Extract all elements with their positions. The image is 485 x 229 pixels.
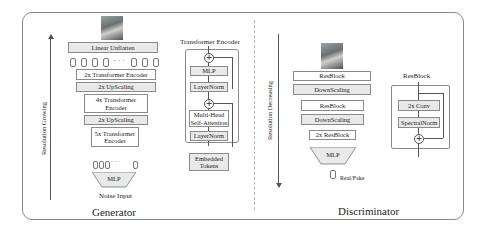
token-icon xyxy=(105,161,110,169)
skip-connection xyxy=(443,93,444,138)
transformer-encoder-title: Transformer Encoder xyxy=(180,38,240,46)
generator-axis-label: Resolution Growing xyxy=(40,102,47,155)
token-icon xyxy=(99,161,104,169)
add-icon: + xyxy=(204,53,214,63)
resolution-decreasing-arrow xyxy=(278,34,279,184)
generator-mlp-label: MLP xyxy=(104,175,124,182)
skip-connection-bottom xyxy=(424,138,443,139)
token-icon xyxy=(142,58,148,67)
resblock-conv-block: 2x Conv xyxy=(398,100,440,111)
generator-title: Generator xyxy=(92,206,136,218)
output-token-icon xyxy=(330,170,336,179)
generator-block-transformer-4x: 4x Transformer Encoder xyxy=(84,94,148,113)
add-icon: + xyxy=(204,99,214,109)
input-image xyxy=(321,43,343,69)
generator-block-upscaling-1: 2x UpScaling xyxy=(76,82,156,92)
discriminator-axis-label: Resolution Decreasing xyxy=(266,81,273,140)
generator-block-transformer-5x: 5x Transformer Encoder xyxy=(91,127,139,147)
token-icon xyxy=(131,58,137,67)
discriminator-block-resblock-2x: 2x ResBlock xyxy=(309,130,356,140)
noise-input-label: Noise Input xyxy=(99,192,132,200)
token-icon xyxy=(153,58,159,67)
token-icon xyxy=(103,58,109,67)
resolution-growing-arrow xyxy=(50,38,51,200)
residual-connection-1-top xyxy=(213,57,232,58)
token-ellipsis: · · · xyxy=(114,57,125,65)
embedded-tokens-block: Embedded Tokens xyxy=(189,153,229,171)
real-fake-label: Real/Fake xyxy=(340,175,364,181)
arrow-down-icon xyxy=(276,183,282,188)
generator-block-transformer-2x: 2x Transformer Encoder xyxy=(76,69,156,80)
encoder-attention-block: Multi-Head Self-Attention xyxy=(189,110,229,127)
discriminator-title: Discriminator xyxy=(338,205,399,217)
token-icon xyxy=(133,161,138,169)
residual-connection-2 xyxy=(232,103,233,147)
token-icon xyxy=(81,58,87,67)
generated-image xyxy=(101,16,123,40)
discriminator-mlp-label: MLP xyxy=(323,151,343,158)
discriminator-block-downscaling-1: DownScaling xyxy=(293,84,371,95)
encoder-mlp-block: MLP xyxy=(190,66,228,76)
add-icon: + xyxy=(414,134,424,144)
residual-connection-2-top xyxy=(213,103,232,104)
discriminator-block-resblock-1: ResBlock xyxy=(293,71,371,81)
token-icon xyxy=(93,161,98,169)
linear-unflatten-block: Linear Unflatten xyxy=(68,42,158,53)
discriminator-block-downscaling-2: DownScaling xyxy=(301,114,364,125)
skip-connection-top xyxy=(418,93,443,94)
token-icon xyxy=(70,58,76,67)
token-ellipsis: · · · xyxy=(111,159,120,165)
section-divider xyxy=(254,20,255,210)
resblock-title: ResBlock xyxy=(403,72,430,80)
arrow-up-icon xyxy=(48,34,54,39)
generator-block-upscaling-2: 2x UpScaling xyxy=(84,115,148,125)
encoder-layernorm-bottom: LayerNorm xyxy=(190,131,228,141)
discriminator-block-resblock-2: ResBlock xyxy=(301,100,364,111)
encoder-container xyxy=(185,49,239,143)
encoder-layernorm-top: LayerNorm xyxy=(190,82,228,92)
token-icon xyxy=(92,58,98,67)
resblock-spectralnorm-block: SpectralNorm xyxy=(398,117,440,128)
residual-connection-1 xyxy=(232,57,233,89)
